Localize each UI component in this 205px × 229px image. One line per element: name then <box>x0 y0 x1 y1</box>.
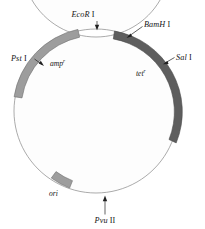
plasmid-diagram-canvas: ampr tetr ori EcoRI BamHI SalI PstI <box>0 0 205 229</box>
pvu2-site-marker: PvuII <box>94 196 116 225</box>
plasmid-map-figure: ampr tetr ori EcoRI BamHI SalI PstI <box>0 0 205 229</box>
pvu2-label: PvuII <box>94 216 116 225</box>
sal1-label: SalI <box>176 53 192 62</box>
bamh1-label: BamHI <box>144 20 171 29</box>
ori-gene-label: ori <box>49 189 58 198</box>
ecor1-label: EcoRI <box>70 10 94 19</box>
pvu2-arrow-icon <box>103 196 107 202</box>
pst1-label: PstI <box>10 54 27 63</box>
sal1-site-marker: SalI <box>163 53 192 64</box>
